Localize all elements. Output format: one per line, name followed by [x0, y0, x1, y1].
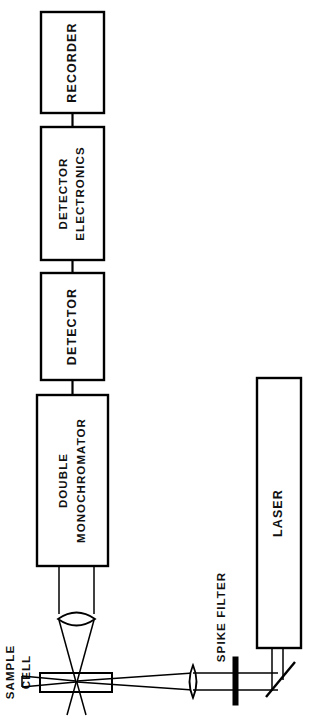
focusing-lens-icon [190, 665, 197, 698]
collection-cone-lower-right-ray [77, 681, 87, 715]
block-recorder: RECORDER [41, 12, 104, 113]
detector-label: DETECTOR [65, 288, 79, 365]
focusing-lens [190, 665, 197, 698]
turning-mirror [266, 662, 295, 697]
detector-electronics-label-line1: DETECTOR [57, 158, 69, 230]
spike-filter-bar [233, 657, 238, 705]
laser-label: LASER [271, 489, 285, 537]
block-double-monochromator: DOUBLE MONOCHROMATOR [37, 395, 108, 566]
block-laser: LASER [257, 378, 301, 648]
recorder-label: RECORDER [65, 22, 79, 102]
excitation-beam-upper-ray [77, 673, 193, 681]
sample-cell-label-line1: SAMPLE [4, 645, 16, 700]
block-detector-electronics: DETECTOR ELECTRONICS [41, 127, 104, 260]
sample-cell-annotation: SAMPLE CELL [4, 645, 32, 700]
collection-cone-lower [67, 681, 86, 715]
block-detector: DETECTOR [41, 273, 104, 380]
detector-electronics-box [41, 127, 104, 260]
spike-filter-element [233, 657, 238, 705]
double-monochromator-label-line1: DOUBLE [57, 453, 69, 508]
double-monochromator-label-line2: MONOCHROMATOR [75, 418, 87, 543]
double-monochromator-box [37, 395, 108, 566]
collection-lens-icon [58, 613, 95, 626]
laser-excitation-beam [22, 673, 193, 690]
excitation-beam-lower-ray [77, 682, 193, 690]
spike-filter-label: SPIKE FILTER [215, 572, 227, 662]
diagram-canvas: RECORDER DETECTOR ELECTRONICS DETECTOR D… [0, 0, 314, 723]
collection-lens [58, 613, 95, 626]
detector-electronics-label-line2: ELECTRONICS [74, 146, 86, 241]
raman-setup-diagram: RECORDER DETECTOR ELECTRONICS DETECTOR D… [0, 0, 314, 723]
collection-cone-lower-left-ray [67, 681, 77, 715]
collection-beam-path [59, 566, 94, 614]
